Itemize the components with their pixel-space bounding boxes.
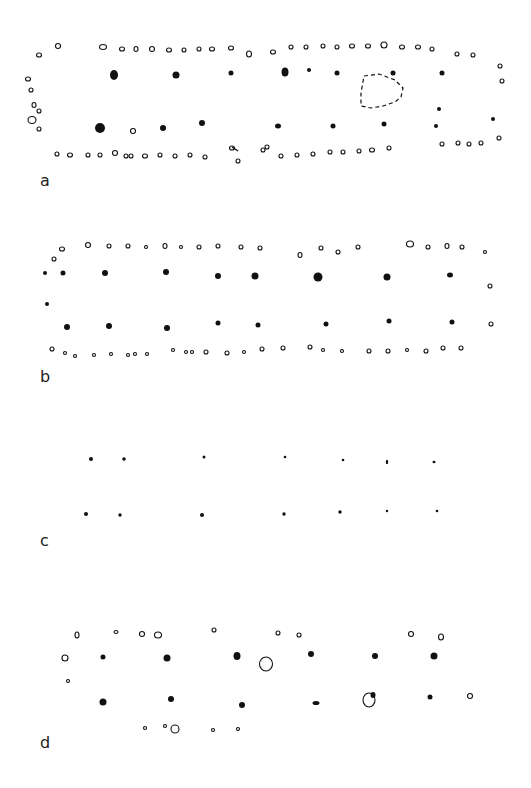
post-hole-open (341, 150, 345, 154)
post-hole-open (304, 45, 308, 49)
post-hole-open (26, 77, 31, 81)
post-hole-filled (314, 273, 323, 282)
post-hole-filled (229, 71, 234, 76)
panel-label-d: d (40, 733, 50, 752)
post-hole-open (440, 142, 444, 146)
post-hole-open (126, 244, 130, 248)
post-hole-open (203, 155, 207, 159)
post-hole-filled (164, 325, 170, 331)
post-hole-filled (338, 510, 341, 513)
post-hole-open (131, 129, 136, 134)
post-hole-open (37, 53, 42, 57)
post-hole-open (471, 53, 475, 57)
post-hole-open (260, 347, 264, 351)
post-hole-open (197, 47, 201, 51)
post-hole-open (225, 351, 229, 355)
post-hole-open (356, 245, 360, 249)
post-hole-open (93, 354, 96, 357)
post-hole-open (143, 154, 148, 158)
post-hole-open (247, 51, 252, 57)
post-hole-open (260, 657, 273, 671)
post-hole-filled (164, 655, 171, 662)
post-hole-filled (64, 324, 70, 330)
post-hole-open (335, 45, 339, 49)
post-hole-open (56, 44, 61, 49)
post-hole-open (468, 694, 473, 699)
post-hole-open (50, 347, 54, 351)
post-hole-open (500, 79, 504, 83)
post-hole-open (29, 88, 33, 92)
post-hole-filled (331, 124, 336, 129)
post-hole-open (298, 253, 302, 258)
post-hole-filled (199, 120, 205, 126)
post-hole-open (271, 50, 276, 54)
post-hole-open (424, 349, 428, 353)
post-hole-filled (102, 270, 108, 276)
post-hole-open (237, 728, 240, 731)
post-hole-filled (234, 652, 241, 660)
panel-label-b: b (40, 367, 50, 386)
post-hole-filled (282, 512, 285, 515)
post-hole-filled (284, 456, 287, 459)
post-hole-filled (216, 321, 221, 326)
post-hole-open (28, 117, 36, 124)
post-hole-open (400, 45, 405, 49)
post-hole-open (68, 153, 73, 157)
panel-d-plan (62, 628, 473, 733)
post-hole-open (406, 349, 409, 352)
post-hole-open (172, 349, 175, 352)
post-hole-open (163, 244, 167, 249)
post-hole-open (276, 631, 280, 635)
post-hole-open (212, 729, 215, 732)
post-hole-open (140, 632, 145, 637)
post-hole-open (171, 725, 179, 733)
panel-a-plan (26, 42, 505, 163)
post-hole-open (319, 246, 323, 250)
diagram-canvas: a b c d (0, 0, 531, 788)
post-hole-filled (203, 456, 206, 459)
post-hole-open (311, 152, 315, 156)
post-hole-filled (118, 513, 121, 516)
post-hole-open (261, 148, 265, 152)
post-hole-open (350, 44, 355, 48)
post-hole-open (321, 44, 325, 48)
post-hole-open (127, 354, 130, 357)
post-hole-open (489, 322, 493, 326)
post-hole-open (456, 141, 460, 145)
post-hole-open (164, 725, 167, 728)
panel-label-a: a (40, 171, 50, 190)
panel-label-c: c (40, 531, 49, 550)
post-hole-filled (436, 510, 439, 513)
post-hole-filled (387, 319, 392, 324)
post-hole-open (229, 46, 234, 50)
post-hole-open (182, 48, 186, 52)
post-hole-open (322, 349, 325, 352)
post-hole-open (75, 632, 79, 638)
post-hole-filled (100, 699, 107, 706)
post-hole-filled (313, 701, 320, 705)
post-hole-open (441, 346, 445, 350)
post-hole-open (32, 103, 36, 108)
post-hole-open (67, 680, 70, 683)
post-hole-open (336, 250, 340, 254)
post-hole-filled (173, 72, 180, 79)
post-hole-filled (101, 655, 106, 660)
post-hole-open (62, 655, 68, 661)
post-hole-open (439, 634, 444, 640)
post-hole-filled (307, 68, 311, 72)
post-hole-filled (434, 124, 438, 128)
post-hole-filled (110, 70, 118, 80)
post-hole-open (488, 284, 492, 288)
post-hole-open (455, 52, 459, 56)
post-hole-filled (282, 68, 289, 77)
post-hole-open (281, 346, 285, 350)
post-hole-open (445, 244, 449, 249)
post-hole-filled (275, 124, 281, 129)
post-hole-open (295, 153, 299, 157)
post-hole-filled (440, 71, 445, 76)
post-hole-open (387, 146, 391, 150)
post-hole-open (386, 349, 390, 353)
post-hole-filled (84, 512, 88, 516)
post-hole-filled (391, 71, 396, 76)
post-hole-filled (61, 271, 66, 276)
